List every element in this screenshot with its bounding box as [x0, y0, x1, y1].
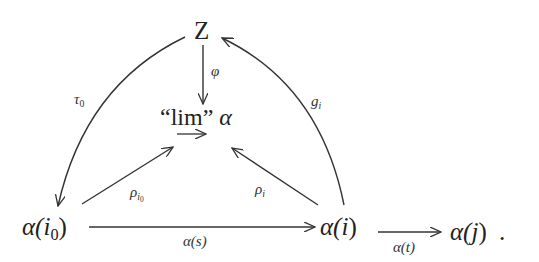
label-alpha-t: α(t)	[393, 240, 415, 255]
node-alpha-j: α(j) .	[450, 219, 505, 244]
alpha-i-prefix: α(	[320, 213, 341, 240]
label-phi: φ	[211, 64, 219, 79]
label-rho-i-sub: i	[262, 188, 265, 199]
label-tau0-sub: 0	[79, 98, 84, 109]
node-Z-label: Z	[194, 17, 209, 44]
arrow-rho-i0	[82, 147, 173, 204]
node-Z: Z	[194, 18, 209, 43]
label-g-i: gi	[311, 94, 321, 111]
label-alpha-s-text: α(s)	[183, 233, 207, 249]
alpha-i0-suffix: )	[59, 213, 67, 240]
node-alpha-i: α(i)	[320, 214, 357, 239]
label-alpha-s: α(s)	[183, 234, 207, 249]
alpha-i0-sub: 0	[50, 226, 58, 244]
lim-text: lim	[171, 104, 203, 130]
label-rho-i: ρi	[255, 182, 265, 199]
alpha-j-suffix: )	[478, 218, 486, 245]
alpha-i-suffix: )	[348, 213, 356, 240]
arrow-g-i	[222, 38, 344, 205]
alpha-symbol: α	[219, 104, 232, 130]
alpha-j-prefix: α(	[450, 218, 471, 245]
label-tau0: τ0	[74, 92, 84, 109]
label-rho-i0: ρi0	[130, 185, 144, 203]
node-alpha-i0: α(i0)	[22, 214, 67, 243]
alpha-i0-prefix: α(	[22, 213, 43, 240]
arrow-rho-i	[232, 148, 318, 205]
quote-open: “	[160, 104, 171, 130]
label-phi-text: φ	[211, 63, 219, 79]
label-alpha-t-text: α(t)	[393, 239, 415, 255]
node-lim-alpha: “lim” α	[160, 105, 232, 129]
label-g-i-text: g	[311, 93, 319, 109]
trailing-period: .	[499, 218, 505, 245]
label-rho-i0-subsub: 0	[140, 195, 144, 204]
label-g-i-sub: i	[319, 100, 322, 111]
quote-close: ”	[203, 104, 214, 130]
